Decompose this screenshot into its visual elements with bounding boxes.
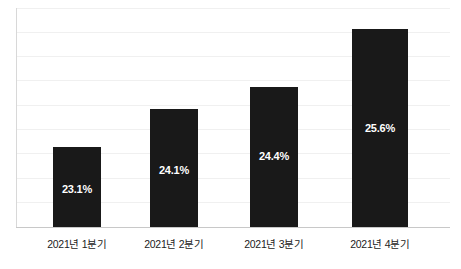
bar-value-label-q4: 25.6%	[352, 122, 408, 134]
x-axis-label-q2: 2021년 2분기	[119, 236, 229, 251]
bar-value-label-q3: 24.4%	[250, 150, 298, 162]
bar-value-label-q2: 24.1%	[150, 164, 198, 176]
bar-chart: 23.1% 24.1% 24.4% 25.6% 2021년 1분기 2021년 …	[0, 0, 461, 269]
x-axis-label-q4: 2021년 4분기	[325, 236, 435, 251]
bars-layer: 23.1% 24.1% 24.4% 25.6%	[0, 0, 461, 269]
x-axis-label-q1: 2021년 1분기	[22, 236, 132, 251]
bar-value-label-q1: 23.1%	[53, 183, 101, 195]
x-axis-label-q3: 2021년 3분기	[219, 236, 329, 251]
